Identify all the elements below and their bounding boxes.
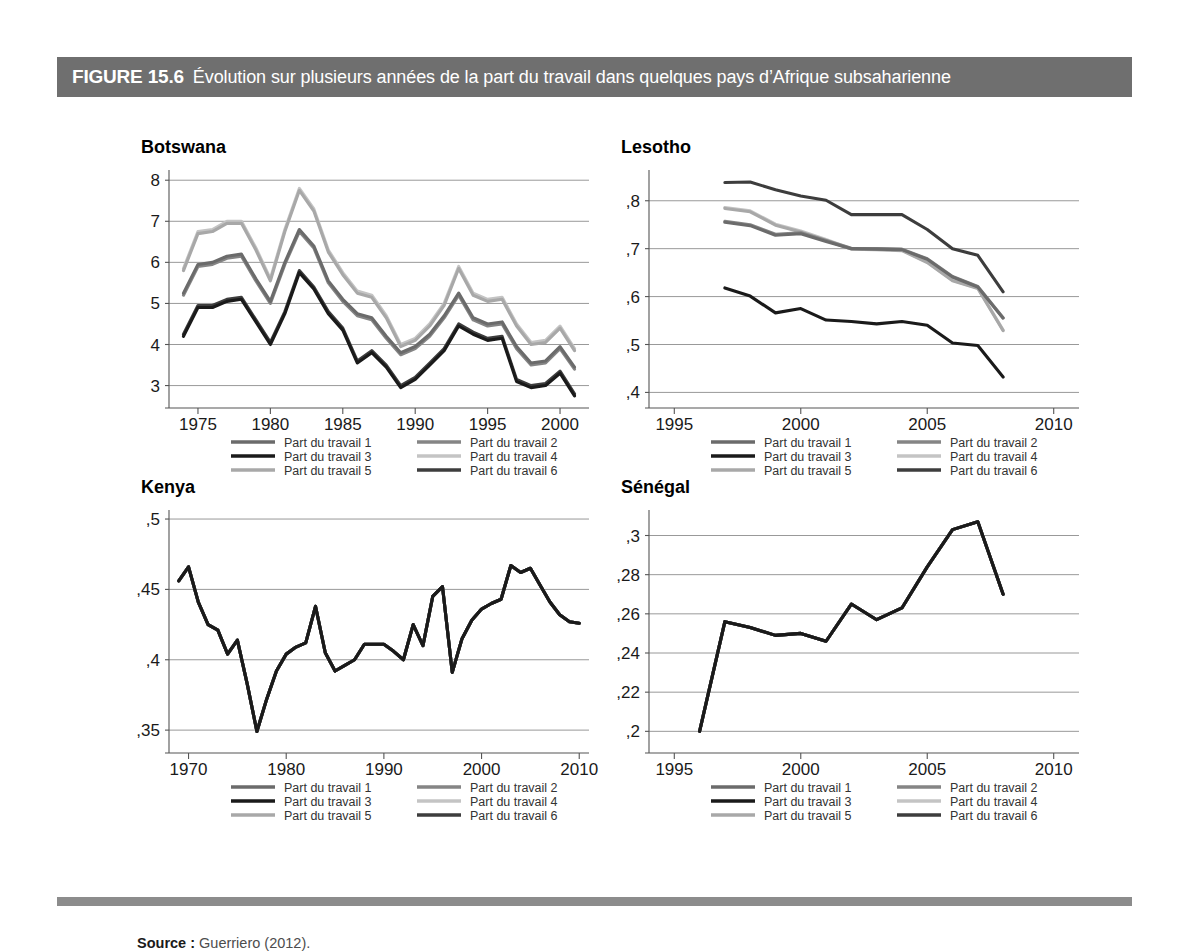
y-tick-label: 3 xyxy=(151,377,160,396)
x-tick-label: 2005 xyxy=(908,760,946,777)
y-tick-label: 4 xyxy=(151,336,160,355)
x-tick-label: 2010 xyxy=(560,760,598,777)
series-line xyxy=(725,222,1003,318)
y-tick-label: ,5 xyxy=(626,336,640,355)
x-tick-label: 1990 xyxy=(365,760,403,777)
legend-label: Part du travail 1 xyxy=(284,436,372,450)
figure-caption: Évolution sur plusieurs années de la par… xyxy=(193,67,951,88)
plot-lesotho: ,4,5,6,7,81995200020052010 xyxy=(597,162,1091,432)
x-tick-label: 2000 xyxy=(782,760,820,777)
panel-title-lesotho: Lesotho xyxy=(597,137,1091,158)
legend-label: Part du travail 5 xyxy=(764,809,852,823)
legend-label: Part du travail 2 xyxy=(950,781,1038,795)
x-tick-label: 1995 xyxy=(469,415,507,432)
source-text: Guerriero (2012). xyxy=(199,935,310,951)
legend-label: Part du travail 3 xyxy=(284,795,372,809)
legend-label: Part du travail 4 xyxy=(950,450,1038,464)
chart-panel-kenya: Kenya ,35,4,45,519701980199020002010 Par… xyxy=(117,477,601,829)
y-tick-label: 5 xyxy=(151,294,160,313)
source-line: Source : Guerriero (2012). xyxy=(137,935,310,951)
legend-label: Part du travail 5 xyxy=(764,464,852,478)
legend-label: Part du travail 6 xyxy=(950,464,1038,478)
legend-label: Part du travail 6 xyxy=(950,809,1038,823)
y-tick-label: ,4 xyxy=(146,651,160,670)
plot-senegal: ,2,22,24,26,28,31995200020052010 xyxy=(597,502,1091,777)
series-line xyxy=(725,221,1003,317)
figure-body: Botswana 345678197519801985199019952000 … xyxy=(57,97,1132,887)
y-tick-label: ,2 xyxy=(626,722,640,741)
y-tick-label: ,4 xyxy=(626,383,640,402)
x-tick-label: 1975 xyxy=(179,415,217,432)
x-tick-label: 1980 xyxy=(267,760,305,777)
y-tick-label: ,28 xyxy=(616,566,640,585)
x-tick-label: 2005 xyxy=(908,415,946,432)
x-tick-label: 2000 xyxy=(541,415,579,432)
chart-panel-senegal: Sénégal ,2,22,24,26,28,31995200020052010… xyxy=(597,477,1091,829)
x-tick-label: 1985 xyxy=(324,415,362,432)
legend-label: Part du travail 3 xyxy=(764,795,852,809)
y-tick-label: ,24 xyxy=(616,644,640,663)
x-tick-label: 2010 xyxy=(1035,415,1073,432)
legend-label: Part du travail 5 xyxy=(284,809,372,823)
x-tick-label: 1980 xyxy=(251,415,289,432)
y-tick-label: ,3 xyxy=(626,527,640,546)
footer-rule xyxy=(57,897,1132,906)
y-tick-label: ,6 xyxy=(626,288,640,307)
legend-label: Part du travail 1 xyxy=(764,436,852,450)
legend-label: Part du travail 6 xyxy=(470,464,558,478)
legend-label: Part du travail 2 xyxy=(470,436,558,450)
legend-label: Part du travail 6 xyxy=(470,809,558,823)
y-tick-label: 7 xyxy=(151,212,160,231)
y-tick-label: 8 xyxy=(151,171,160,190)
plot-kenya: ,35,4,45,519701980199020002010 xyxy=(117,502,601,777)
chart-panel-botswana: Botswana 345678197519801985199019952000 … xyxy=(117,137,601,484)
x-tick-label: 1995 xyxy=(655,415,693,432)
legend-label: Part du travail 4 xyxy=(950,795,1038,809)
x-tick-label: 1990 xyxy=(396,415,434,432)
legend-kenya: Part du travail 1Part du travail 3Part d… xyxy=(117,777,601,829)
y-tick-label: ,5 xyxy=(146,510,160,529)
legend-label: Part du travail 1 xyxy=(764,781,852,795)
series-line xyxy=(179,565,579,731)
panel-title-kenya: Kenya xyxy=(117,477,601,498)
x-tick-label: 2000 xyxy=(782,415,820,432)
x-tick-label: 1995 xyxy=(655,760,693,777)
legend-label: Part du travail 1 xyxy=(284,781,372,795)
plot-botswana: 345678197519801985199019952000 xyxy=(117,162,601,432)
legend-label: Part du travail 2 xyxy=(950,436,1038,450)
figure-header-bar: FIGURE 15.6 Évolution sur plusieurs anné… xyxy=(57,57,1132,97)
series-line xyxy=(725,208,1003,330)
series-line xyxy=(700,522,1004,732)
y-tick-label: ,26 xyxy=(616,605,640,624)
y-tick-label: ,35 xyxy=(136,721,160,740)
x-tick-label: 2000 xyxy=(463,760,501,777)
legend-label: Part du travail 5 xyxy=(284,464,372,478)
legend-label: Part du travail 3 xyxy=(284,450,372,464)
x-tick-label: 1970 xyxy=(170,760,208,777)
x-tick-label: 2010 xyxy=(1035,760,1073,777)
panel-title-senegal: Sénégal xyxy=(597,477,1091,498)
legend-label: Part du travail 2 xyxy=(470,781,558,795)
legend-label: Part du travail 4 xyxy=(470,795,558,809)
series-line xyxy=(183,273,574,396)
y-tick-label: ,45 xyxy=(136,580,160,599)
legend-senegal: Part du travail 1Part du travail 3Part d… xyxy=(597,777,1091,829)
y-tick-label: ,7 xyxy=(626,240,640,259)
figure-number: FIGURE 15.6 xyxy=(72,66,184,88)
y-tick-label: ,22 xyxy=(616,683,640,702)
source-label: Source : xyxy=(137,935,195,951)
legend-label: Part du travail 4 xyxy=(470,450,558,464)
panel-title-botswana: Botswana xyxy=(117,137,601,158)
y-tick-label: 6 xyxy=(151,253,160,272)
series-line xyxy=(725,288,1003,377)
y-tick-label: ,8 xyxy=(626,192,640,211)
series-line xyxy=(725,207,1003,330)
series-line xyxy=(725,182,1003,292)
legend-label: Part du travail 3 xyxy=(764,450,852,464)
chart-panel-lesotho: Lesotho ,4,5,6,7,81995200020052010 Part … xyxy=(597,137,1091,484)
